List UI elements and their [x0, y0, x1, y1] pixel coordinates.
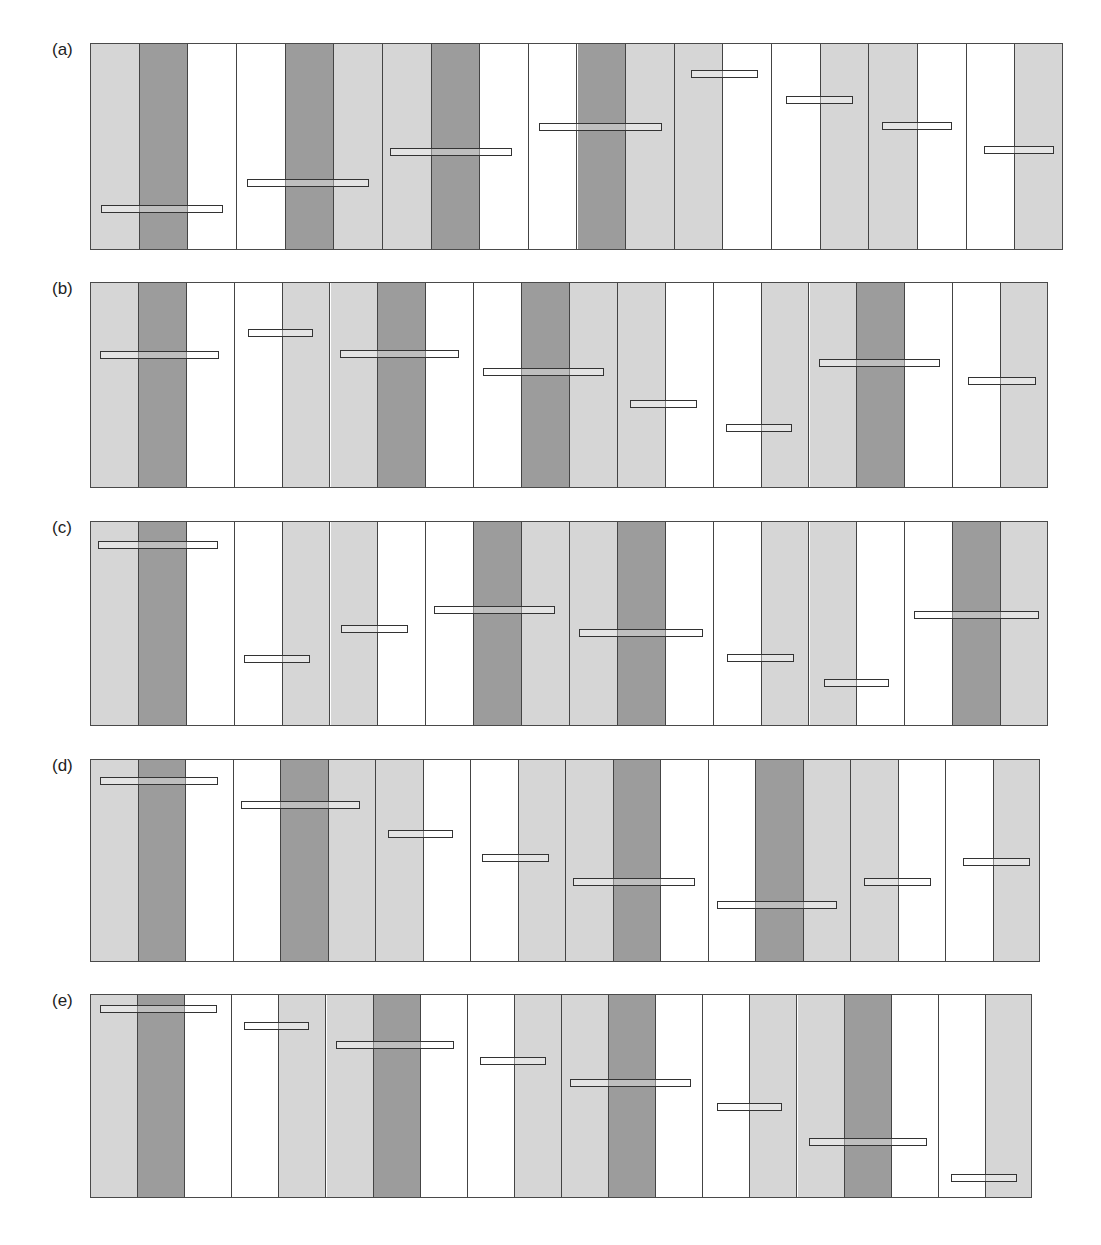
column-white: [666, 283, 714, 487]
column-light: [570, 283, 618, 487]
horizontal-bar: [100, 1005, 217, 1013]
horizontal-bar: [726, 424, 792, 432]
column-light: [331, 522, 379, 725]
column-light: [331, 283, 379, 487]
column-white: [772, 44, 821, 249]
column-light: [91, 522, 139, 725]
horizontal-bar: [480, 1057, 546, 1065]
column-dark: [138, 995, 185, 1197]
column-dark: [139, 283, 187, 487]
column-light: [329, 760, 377, 961]
column-light: [91, 760, 139, 961]
column-light: [1001, 283, 1048, 487]
column-white: [918, 44, 967, 249]
column-light: [1001, 522, 1048, 725]
column-light: [566, 760, 614, 961]
column-dark: [953, 522, 1001, 725]
column-light: [986, 995, 1032, 1197]
column-light: [91, 44, 140, 249]
column-dark: [378, 283, 426, 487]
column-light: [91, 283, 139, 487]
horizontal-bar: [914, 611, 1039, 619]
column-dark: [140, 44, 189, 249]
column-white: [186, 760, 234, 961]
horizontal-bar: [340, 350, 459, 358]
column-light: [869, 44, 918, 249]
column-dark: [281, 760, 329, 961]
horizontal-bar: [819, 359, 940, 367]
column-light: [762, 522, 810, 725]
column-white: [892, 995, 939, 1197]
column-white: [666, 522, 714, 725]
column-light: [810, 522, 858, 725]
panel-label: (b): [52, 279, 73, 299]
column-light: [618, 283, 666, 487]
column-white: [187, 522, 235, 725]
column-white: [714, 522, 762, 725]
panel-label: (c): [52, 518, 72, 538]
column-dark: [286, 44, 335, 249]
column-light: [327, 995, 374, 1197]
horizontal-bar: [98, 541, 218, 549]
horizontal-bar: [244, 1022, 309, 1030]
column-dark: [857, 283, 905, 487]
horizontal-bar: [247, 179, 369, 187]
horizontal-bar: [539, 123, 662, 131]
horizontal-bar: [786, 96, 853, 104]
column-white: [953, 283, 1001, 487]
panel-a: [90, 43, 1063, 250]
horizontal-bar: [963, 858, 1030, 866]
column-white: [424, 760, 472, 961]
column-white: [237, 44, 286, 249]
column-dark: [522, 283, 570, 487]
horizontal-bar: [691, 70, 758, 78]
column-light: [91, 995, 138, 1197]
column-white: [905, 522, 953, 725]
panel-label: (e): [52, 991, 73, 1011]
column-white: [185, 995, 232, 1197]
column-dark: [474, 522, 522, 725]
horizontal-bar: [984, 146, 1054, 154]
horizontal-bar: [483, 368, 604, 376]
column-white: [234, 760, 282, 961]
horizontal-bar: [951, 1174, 1017, 1182]
column-dark: [845, 995, 892, 1197]
horizontal-bar: [341, 625, 408, 633]
column-dark: [618, 522, 666, 725]
column-white: [857, 522, 905, 725]
column-white: [709, 760, 757, 961]
column-light: [810, 283, 858, 487]
column-white: [187, 283, 235, 487]
column-dark: [609, 995, 656, 1197]
column-white: [426, 522, 474, 725]
column-white: [480, 44, 529, 249]
column-light: [750, 995, 797, 1197]
column-light: [283, 283, 331, 487]
column-light: [522, 522, 570, 725]
horizontal-bar: [388, 830, 453, 838]
horizontal-bar: [101, 205, 223, 213]
column-white: [899, 760, 947, 961]
column-dark: [139, 760, 187, 961]
column-white: [474, 283, 522, 487]
column-white: [188, 44, 237, 249]
column-white: [905, 283, 953, 487]
column-white: [235, 283, 283, 487]
horizontal-bar: [570, 1079, 691, 1087]
horizontal-bar: [336, 1041, 454, 1049]
horizontal-bar: [809, 1138, 927, 1146]
horizontal-bar: [882, 122, 952, 130]
horizontal-bar: [579, 629, 703, 637]
column-light: [376, 760, 424, 961]
panel-b: [90, 282, 1048, 488]
column-light: [851, 760, 899, 961]
horizontal-bar: [390, 148, 512, 156]
horizontal-bar: [864, 878, 931, 886]
column-white: [426, 283, 474, 487]
column-white: [421, 995, 468, 1197]
column-dark: [614, 760, 662, 961]
horizontal-bar: [244, 655, 310, 663]
horizontal-bar: [717, 1103, 782, 1111]
column-white: [529, 44, 578, 249]
horizontal-bar: [727, 654, 794, 662]
